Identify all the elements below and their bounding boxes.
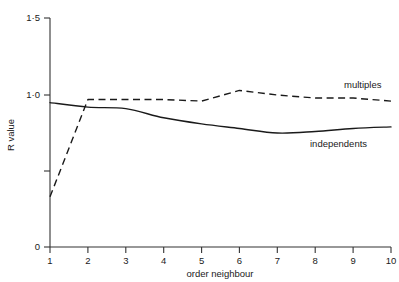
- y-tick-label-1-0: 1·0: [26, 89, 40, 100]
- x-tick-label-group: 1 2 3 4 5 6 7 8 9 10: [47, 255, 396, 266]
- x-tick-label-7: 7: [275, 255, 280, 266]
- series-label-multiples: multiples: [344, 79, 382, 90]
- y-tick-label-group: 0 1·0 1·5: [26, 12, 40, 252]
- x-tick-label-5: 5: [199, 255, 204, 266]
- x-tick-label-4: 4: [161, 255, 166, 266]
- x-tick-label-1: 1: [47, 255, 52, 266]
- x-tick-label-6: 6: [237, 255, 242, 266]
- line-chart: 0 1·0 1·5 1 2 3 4 5 6 7 8 9 10 order nei…: [0, 0, 399, 282]
- y-tick-group: [44, 18, 50, 247]
- x-tick-group: [50, 247, 391, 253]
- x-tick-label-9: 9: [350, 255, 355, 266]
- x-axis-title: order neighbour: [186, 268, 253, 279]
- x-tick-label-8: 8: [313, 255, 318, 266]
- y-tick-label-0: 0: [35, 241, 40, 252]
- series-label-independents: independents: [310, 138, 367, 149]
- x-tick-label-3: 3: [123, 255, 128, 266]
- series-line-independents: [50, 103, 391, 134]
- x-tick-label-2: 2: [85, 255, 90, 266]
- x-tick-label-10: 10: [386, 255, 397, 266]
- y-axis-title: R value: [5, 119, 16, 151]
- axis-group: [50, 18, 391, 247]
- y-tick-label-1-5: 1·5: [26, 12, 40, 23]
